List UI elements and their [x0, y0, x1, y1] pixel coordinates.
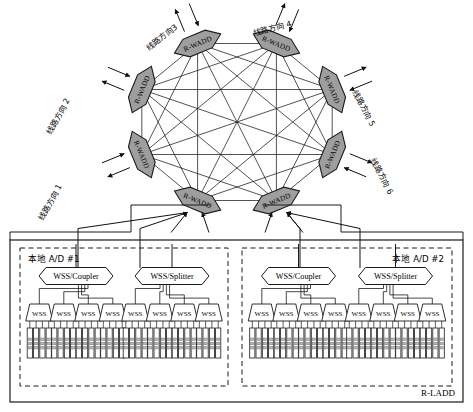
- transponder-band: [204, 338, 207, 341]
- direction-group: 线路方向 5: [344, 67, 378, 128]
- wss-feed-line: [170, 285, 209, 305]
- transponder-band: [421, 338, 424, 341]
- transponder-band: [378, 338, 381, 341]
- wss-aggregator-label: WSS/Splitter: [150, 272, 193, 281]
- transponder-band: [378, 342, 381, 345]
- transponder-band: [53, 338, 56, 341]
- transponder-band: [434, 342, 437, 345]
- transponder-band: [47, 338, 50, 341]
- transponder-band: [179, 338, 182, 341]
- transponder-band: [281, 342, 284, 345]
- transponder-band: [397, 346, 400, 349]
- transponder-band: [343, 338, 346, 341]
- transponder-band: [53, 342, 56, 345]
- transponder-band: [192, 338, 195, 341]
- transponder-band: [137, 338, 140, 341]
- transponder-band: [173, 338, 176, 341]
- transponder-band: [155, 338, 158, 341]
- transponder-band: [251, 346, 254, 349]
- transponder-band: [270, 338, 273, 341]
- transponder-band: [130, 346, 133, 349]
- wss-label: WSS: [81, 310, 96, 318]
- transponder-band: [124, 342, 127, 345]
- transponder-band: [288, 342, 291, 345]
- transponder-band: [114, 338, 117, 341]
- transponder-band: [354, 342, 357, 345]
- transponder-band: [330, 338, 333, 341]
- transponder-band: [130, 342, 133, 345]
- transponder-band: [47, 342, 50, 345]
- transponder-band: [257, 346, 260, 349]
- transponder-band: [114, 342, 117, 345]
- transponder-band: [161, 342, 164, 345]
- transponder-band: [391, 346, 394, 349]
- transponder-band: [409, 342, 412, 345]
- transponder-band: [41, 346, 44, 349]
- transponder-band: [275, 346, 278, 349]
- transponder-band: [114, 346, 117, 349]
- mesh-links: [142, 44, 332, 201]
- transponder-band: [251, 338, 254, 341]
- transponder-band: [427, 342, 430, 345]
- transponder-band: [409, 346, 412, 349]
- transponder-band: [90, 346, 93, 349]
- transponder-band: [275, 342, 278, 345]
- transponder-band: [96, 346, 99, 349]
- transponder-band: [198, 342, 201, 345]
- mesh-link: [142, 155, 277, 201]
- transponder-band: [41, 338, 44, 341]
- transponder-band: [427, 338, 430, 341]
- transponder-band: [337, 346, 340, 349]
- transponder-band: [149, 338, 152, 341]
- transponder-band: [83, 338, 86, 341]
- mesh-link: [198, 155, 333, 201]
- transponder-band: [403, 338, 406, 341]
- transponder-band: [65, 338, 68, 341]
- wss-label: WSS: [328, 310, 343, 318]
- transponder-band: [312, 342, 315, 345]
- transponder-band: [186, 338, 189, 341]
- direction-group: 线路方向 1: [36, 67, 130, 222]
- transponder-band: [186, 342, 189, 345]
- transponder-band: [102, 342, 105, 345]
- transponder-band: [102, 346, 105, 349]
- r-ladd-label: R-LADD: [421, 388, 455, 398]
- transponder-band: [161, 338, 164, 341]
- wss-aggregator-label: WSS/Coupler: [276, 272, 322, 281]
- transponder-band: [204, 346, 207, 349]
- wss-label: WSS: [304, 310, 319, 318]
- transponder-band: [210, 342, 213, 345]
- transponder-band: [300, 346, 303, 349]
- transponder-band: [198, 346, 201, 349]
- wss-label: WSS: [425, 310, 440, 318]
- transponder-band: [440, 346, 443, 349]
- transponder-band: [143, 346, 146, 349]
- transponder-band: [257, 342, 260, 345]
- transponder-band: [275, 338, 278, 341]
- transponder-band: [173, 346, 176, 349]
- mesh-link: [142, 90, 277, 201]
- transponder-band: [149, 346, 152, 349]
- transponder-band: [324, 338, 327, 341]
- direction-label: 线路方向 1: [36, 182, 63, 222]
- transponder-band: [354, 346, 357, 349]
- transponder-band: [337, 338, 340, 341]
- wss-feed-line: [301, 285, 335, 305]
- transponder-band: [319, 342, 322, 345]
- mesh-link: [142, 90, 198, 201]
- wss-label: WSS: [255, 310, 270, 318]
- transponder-band: [288, 338, 291, 341]
- ad-group: WSS/CouplerWSSWSSWSSWSS: [248, 244, 349, 358]
- transponder-band: [294, 342, 297, 345]
- wss-label: WSS: [153, 310, 168, 318]
- transponder-band: [41, 342, 44, 345]
- direction-arrow: [102, 154, 124, 163]
- transponder-band: [59, 338, 62, 341]
- transponder-band: [155, 342, 158, 345]
- transponder-band: [306, 342, 309, 345]
- transponder-band: [217, 346, 220, 349]
- transponder-band: [217, 338, 220, 341]
- ad-block: 本地 A/D #2WSS/CouplerWSSWSSWSSWSSWSS/Spli…: [242, 244, 452, 386]
- transponder-band: [124, 338, 127, 341]
- transponder-band: [367, 338, 370, 341]
